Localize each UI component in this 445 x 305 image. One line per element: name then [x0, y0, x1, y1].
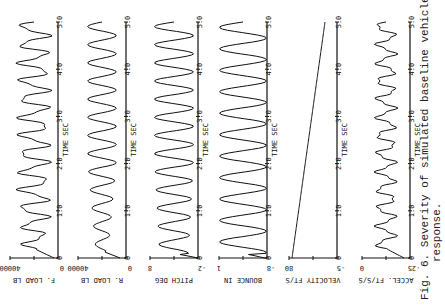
waveform-pitch: [155, 22, 199, 258]
time-tick-label: 3.0: [335, 110, 343, 123]
value-max-label: 40000: [0, 264, 21, 272]
figure-caption: Fig. 6. Severity of simulated baseline v…: [419, 0, 431, 300]
value-min-label: 0: [128, 264, 132, 272]
panel-pitch: 01.02.03.04.05.0TIME SEC8-2PITCH DEG: [148, 16, 210, 284]
value-max-label: 8: [148, 264, 152, 272]
panel-bounce: 01.02.03.04.05.0TIME SEC1-8BOUNCE IN: [217, 16, 279, 284]
value-min-label: -2: [198, 264, 206, 272]
value-axis-label: BOUNCE IN: [224, 276, 262, 284]
value-axis-label: ACCEL. FT/S/S: [359, 276, 414, 284]
time-axis-label: TIME SEC: [62, 123, 70, 157]
panel-accel: 01.02.03.04.05.0TIME SEC0-25ACCEL. FT/S/…: [359, 16, 422, 284]
time-tick-label: 3.0: [56, 110, 64, 123]
value-axis-label: PITCH DEG: [155, 276, 193, 284]
panel-velocity: 01.02.03.04.05.0TIME SEC80-5VELOCITY FT/…: [285, 16, 349, 284]
time-tick-label: 2.0: [56, 157, 64, 170]
figure-caption-cont: response.: [431, 203, 443, 262]
time-tick-label: 2.0: [408, 157, 416, 170]
waveform-f-load: [16, 22, 54, 258]
time-tick-label: 4.0: [196, 63, 204, 76]
time-tick-label: 5.0: [56, 16, 64, 29]
time-tick-label: 2.0: [124, 157, 132, 170]
time-tick-label: 3.0: [408, 110, 416, 123]
time-tick-label: 3.0: [196, 110, 204, 123]
time-axis-label: TIME SEC: [202, 123, 210, 157]
time-tick-label: 1.0: [56, 204, 64, 217]
time-axis-label: TIME SEC: [271, 123, 279, 157]
waveform-bounce: [220, 22, 267, 258]
time-tick-label: 5.0: [124, 16, 132, 29]
panel-f-load: 01.02.03.04.05.0TIME SEC400000F. LOAD LB: [0, 16, 70, 284]
time-tick-label: 5.0: [265, 16, 273, 29]
time-tick-label: 1.0: [408, 204, 416, 217]
waveform-accel: [374, 22, 404, 258]
time-tick-label: 3.0: [265, 110, 273, 123]
time-tick-label: 1.0: [196, 204, 204, 217]
time-tick-label: 2.0: [265, 157, 273, 170]
value-min-label: -8: [267, 264, 275, 272]
value-min-label: -5: [337, 264, 345, 272]
time-tick-label: 5.0: [408, 16, 416, 29]
time-tick-label: 4.0: [124, 63, 132, 76]
time-tick-label: 2.0: [335, 157, 343, 170]
value-axis-label: VELOCITY FT/S: [286, 276, 341, 284]
time-axis-label: TIME SEC: [341, 123, 349, 157]
time-tick-label: 2.0: [196, 157, 204, 170]
time-tick-label: 4.0: [335, 63, 343, 76]
value-axis-label: F. LOAD LB: [13, 276, 55, 284]
waveform-r-load: [88, 22, 120, 258]
time-tick-label: 1.0: [265, 204, 273, 217]
value-max-label: 80: [285, 264, 293, 272]
waveform-velocity: [292, 22, 325, 258]
value-max-label: 40000: [67, 264, 88, 272]
panel-r-load: 01.02.03.04.05.0TIME SEC400000R. LOAD LB: [67, 16, 138, 284]
value-axis-label: R. LOAD LB: [81, 276, 123, 284]
time-tick-label: 1.0: [335, 204, 343, 217]
time-tick-label: 4.0: [408, 63, 416, 76]
value-max-label: 0: [360, 264, 364, 272]
time-tick-label: 5.0: [196, 16, 204, 29]
time-tick-label: 5.0: [335, 16, 343, 29]
figure: 01.02.03.04.05.0TIME SEC400000F. LOAD LB…: [0, 0, 445, 305]
time-tick-label: 4.0: [56, 63, 64, 76]
time-tick-label: 1.0: [124, 204, 132, 217]
time-axis-label: TIME SEC: [130, 123, 138, 157]
value-max-label: 1: [217, 264, 221, 272]
value-min-label: 0: [60, 264, 64, 272]
time-tick-label: 4.0: [265, 63, 273, 76]
time-tick-label: 3.0: [124, 110, 132, 123]
